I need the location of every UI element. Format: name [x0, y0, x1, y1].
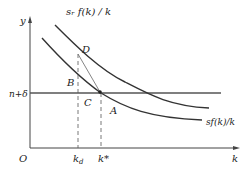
upper-curve [55, 25, 209, 108]
d-to-a-line [78, 54, 100, 92]
point-a-label: A [109, 105, 117, 116]
x-axis-label: k [232, 153, 238, 164]
point-c-label: C [84, 97, 92, 108]
equilibrium-point [98, 90, 102, 94]
x-axis-arrow [233, 146, 240, 150]
upper-curve-label: sᵣ f(k) / k [66, 6, 111, 17]
n-plus-delta-label: n+δ [9, 89, 28, 99]
kstar-tick-label: k* [98, 153, 109, 164]
lower-curve [42, 38, 202, 120]
origin-label: O [19, 153, 27, 164]
growth-diagram: y k O sᵣ f(k) / k sf(k)/k n+δ D B C A kd… [0, 0, 245, 172]
kd-tick-label: kd [73, 153, 84, 166]
lower-curve-label: sf(k)/k [206, 117, 235, 127]
y-axis-label: y [19, 15, 26, 26]
y-axis-arrow [28, 16, 32, 23]
point-b-label: B [66, 77, 74, 88]
point-d-label: D [81, 44, 90, 55]
